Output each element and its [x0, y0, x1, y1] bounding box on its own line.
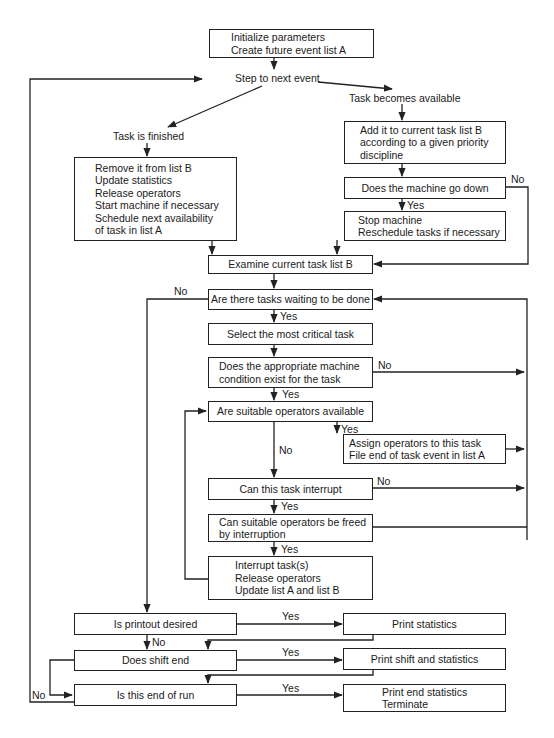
- can-interrupt-yes-label: Yes: [281, 500, 298, 512]
- remove-line-4: Start machine if necessary: [95, 199, 219, 212]
- print-shift-box: Print shift and statistics: [343, 648, 506, 670]
- machine-condition-yes-label: Yes: [282, 388, 299, 400]
- operators-available-box: Are suitable operators available: [208, 401, 373, 422]
- tasks-waiting-box: Are there tasks waiting to be done: [208, 289, 373, 310]
- interrupt-box: Interrupt task(s) Release operators Upda…: [208, 556, 373, 600]
- assign-line-2: File end of task event in list A: [349, 449, 485, 462]
- shift-end-yes-label: Yes: [282, 646, 299, 658]
- end-run-box: Is this end of run: [74, 684, 237, 706]
- add-line-1: Add it to current task list B: [360, 124, 482, 137]
- can-free-yes-label: Yes: [281, 543, 298, 555]
- end-run-text: Is this end of run: [117, 689, 195, 702]
- init-line-2: Create future event list A: [231, 44, 346, 57]
- print-shift-text: Print shift and statistics: [371, 653, 478, 666]
- select-box: Select the most critical task: [208, 323, 373, 345]
- shift-end-box: Does shift end: [74, 650, 237, 671]
- machine-down-yes-label: Yes: [407, 199, 424, 211]
- init-box: Initialize parameters Create future even…: [209, 29, 374, 58]
- remove-line-3: Release operators: [95, 187, 181, 200]
- can-interrupt-no-label: No: [377, 475, 390, 487]
- interrupt-line-1: Interrupt task(s): [235, 559, 309, 572]
- can-interrupt-box: Can this task interrupt: [208, 478, 373, 500]
- select-text: Select the most critical task: [227, 328, 354, 341]
- machine-condition-line-1: Does the appropriate machine: [219, 360, 360, 373]
- machine-down-no-label: No: [511, 173, 524, 185]
- printout-box: Is printout desired: [74, 613, 237, 635]
- end-run-no-label: No: [32, 689, 45, 701]
- stop-machine-box: Stop machine Reschedule tasks if necessa…: [344, 211, 506, 241]
- can-free-box: Can suitable operators be freed by inter…: [208, 514, 373, 542]
- printout-text: Is printout desired: [114, 618, 197, 631]
- machine-down-box: Does the machine go down: [344, 177, 506, 199]
- add-line-3: discipline: [360, 149, 403, 162]
- can-free-line-1: Can suitable operators be freed: [219, 516, 366, 529]
- print-stats-text: Print statistics: [392, 618, 457, 631]
- examine-text: Examine current task list B: [228, 258, 352, 271]
- machine-condition-box: Does the appropriate machine condition e…: [208, 357, 373, 388]
- remove-box: Remove it from list B Update statistics …: [74, 157, 237, 241]
- machine-condition-line-2: condition exist for the task: [219, 373, 340, 386]
- remove-line-2: Update statistics: [95, 174, 172, 187]
- remove-line-1: Remove it from list B: [95, 162, 192, 175]
- add-box: Add it to current task list B according …: [344, 121, 506, 164]
- operators-available-text: Are suitable operators available: [217, 405, 364, 418]
- operators-available-no-label: No: [279, 444, 292, 456]
- interrupt-line-3: Update list A and list B: [235, 584, 339, 597]
- print-end-box: Print end statistics Terminate: [343, 684, 506, 712]
- machine-down-text: Does the machine go down: [361, 182, 488, 195]
- init-line-1: Initialize parameters: [231, 31, 325, 44]
- remove-line-6: of task in list A: [95, 224, 162, 237]
- end-run-yes-label: Yes: [282, 682, 299, 694]
- shift-end-text: Does shift end: [122, 654, 189, 667]
- print-stats-box: Print statistics: [343, 613, 506, 635]
- printout-yes-label: Yes: [282, 610, 299, 622]
- tasks-waiting-text: Are there tasks waiting to be done: [211, 293, 370, 306]
- print-end-line-1: Print end statistics: [382, 686, 467, 699]
- stop-line-2: Reschedule tasks if necessary: [358, 226, 500, 239]
- task-available-label: Task becomes available: [349, 92, 460, 104]
- add-line-2: according to a given priority: [360, 136, 488, 149]
- remove-line-5: Schedule next availability: [95, 212, 213, 225]
- can-interrupt-text: Can this task interrupt: [239, 483, 341, 496]
- print-end-line-2: Terminate: [382, 698, 428, 711]
- machine-condition-no-label: No: [378, 359, 391, 371]
- can-free-line-2: by interruption: [219, 528, 286, 541]
- assign-box: Assign operators to this task File end o…: [343, 434, 506, 464]
- interrupt-line-2: Release operators: [235, 572, 321, 585]
- task-finished-label: Task is finished: [113, 130, 184, 142]
- step-label: Step to next event: [235, 72, 320, 84]
- tasks-waiting-no-label: No: [174, 285, 187, 297]
- stop-line-1: Stop machine: [358, 214, 422, 227]
- examine-box: Examine current task list B: [208, 255, 373, 274]
- tasks-waiting-yes-label: Yes: [280, 310, 297, 322]
- printout-no-label: No: [152, 636, 165, 648]
- assign-line-1: Assign operators to this task: [349, 437, 481, 450]
